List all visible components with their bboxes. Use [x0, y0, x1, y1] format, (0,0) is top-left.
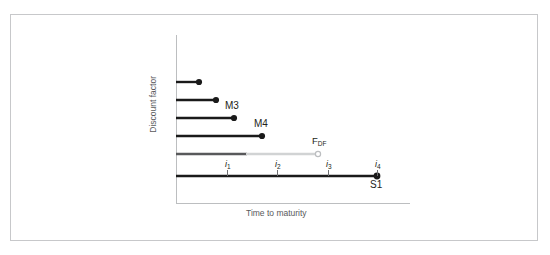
i2-subscript: 2	[277, 163, 281, 170]
i4-subscript: 4	[377, 163, 381, 170]
i1-subscript: 1	[227, 163, 231, 170]
interval-label-i1: i1	[225, 160, 231, 169]
discount-factor-stem-diagram: Discount factor Time to maturity M3 M4 F…	[0, 0, 550, 255]
fdf-subscript: DF	[318, 140, 327, 147]
interval-label-i3: i3	[326, 160, 332, 169]
fdf-base: F	[312, 135, 318, 146]
interval-label-i2: i2	[275, 160, 281, 169]
y-axis-title: Discount factor	[149, 76, 158, 133]
series-label-fdf: FDF	[312, 136, 326, 146]
figure-border	[11, 15, 538, 241]
series-label-s1: S1	[370, 180, 382, 190]
series-label-m3: M3	[225, 101, 239, 111]
i3-subscript: 3	[328, 163, 332, 170]
interval-label-i4: i4	[375, 160, 381, 169]
series-label-m4: M4	[254, 119, 268, 129]
x-axis-title: Time to maturity	[246, 209, 307, 218]
